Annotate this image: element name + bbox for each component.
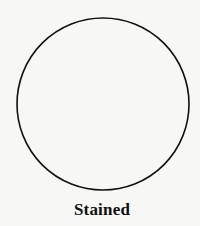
circle-outline: [17, 18, 189, 190]
circle-figure: [0, 0, 200, 200]
figure-caption: Stained: [0, 200, 200, 220]
diagram-canvas: Stained: [0, 0, 200, 226]
